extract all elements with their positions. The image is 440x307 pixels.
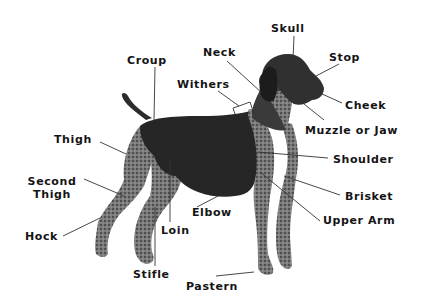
- label-second-thigh-line2: Thigh: [22, 188, 82, 201]
- label-second-thigh-line1: Second: [22, 175, 82, 188]
- label-stifle: Stifle: [133, 268, 170, 281]
- label-muzzle-or-jaw: Muzzle or Jaw: [305, 124, 398, 137]
- label-second-thigh: Second Thigh: [22, 175, 82, 201]
- label-cheek: Cheek: [345, 99, 386, 112]
- ear-shape: [259, 66, 277, 102]
- label-croup: Croup: [127, 54, 167, 67]
- label-withers: Withers: [177, 78, 230, 91]
- label-stop: Stop: [329, 51, 360, 64]
- dog-anatomy-diagram: Skull Stop Neck Croup Withers Cheek Muzz…: [0, 0, 440, 307]
- label-upper-arm: Upper Arm: [323, 214, 395, 227]
- label-pastern: Pastern: [186, 280, 238, 293]
- label-elbow: Elbow: [192, 206, 232, 219]
- label-thigh: Thigh: [54, 133, 92, 146]
- tail-shape: [122, 93, 152, 120]
- label-skull: Skull: [271, 22, 305, 35]
- label-neck: Neck: [203, 46, 236, 59]
- label-brisket: Brisket: [345, 190, 393, 203]
- label-hock: Hock: [25, 230, 58, 243]
- label-shoulder: Shoulder: [333, 153, 393, 166]
- label-loin: Loin: [161, 224, 190, 237]
